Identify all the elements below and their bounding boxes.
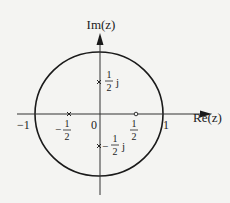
pole-half-j-unit: j [115, 76, 119, 88]
imag-axis-label: Im(z) [87, 17, 116, 32]
tick-half-den: 2 [132, 131, 137, 142]
pole-half-j-num: 1 [107, 69, 112, 80]
pole-neg-half-j-unit: j [121, 140, 125, 152]
pole-neg-half-j-den: 2 [113, 146, 118, 157]
tick-neg-half-den: 2 [65, 131, 70, 142]
pole-neg-half-j-num: 1 [113, 133, 118, 144]
z-plane-diagram: Im(z) Re(z) −1 1 0 − 1 2 1 2 1 2 j − 1 2… [0, 0, 230, 203]
tick-neg-half-num: 1 [65, 118, 70, 129]
imag-axis-arrow-icon [97, 33, 104, 45]
tick-half-num: 1 [132, 118, 137, 129]
tick-one: 1 [163, 118, 169, 132]
pole-half-j-den: 2 [107, 82, 112, 93]
pole-neg-half-j-sign: − [102, 140, 108, 152]
zero-marker-icon [134, 112, 138, 116]
tick-neg-half-sign: − [55, 123, 61, 135]
origin-label: 0 [91, 118, 97, 132]
tick-neg-one: −1 [17, 118, 30, 132]
real-axis-label: Re(z) [193, 110, 222, 125]
